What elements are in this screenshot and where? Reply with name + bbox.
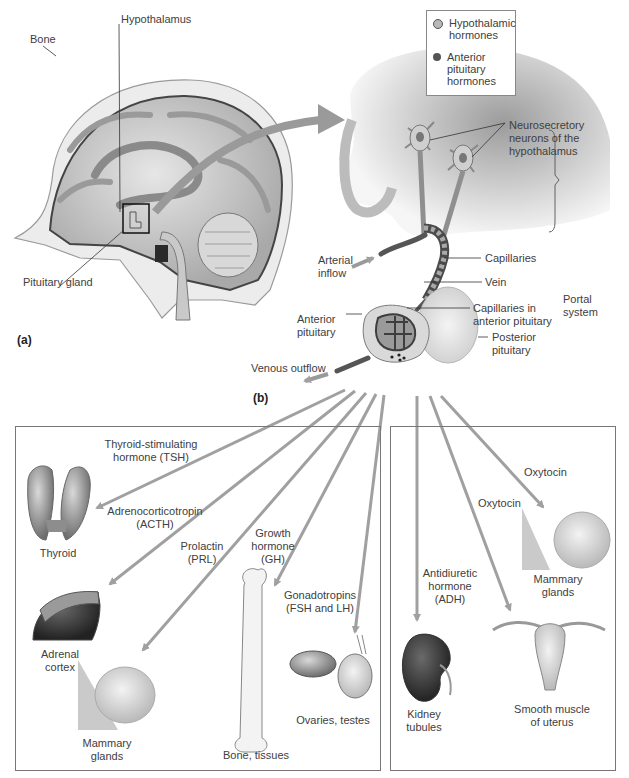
organ-label-kidney-tubules: Kidney tubules <box>402 708 446 734</box>
legend-label: hormones <box>447 75 496 87</box>
legend-item-anterior: Anteriorpituitaryhormones <box>433 51 496 87</box>
label-vein: Vein <box>485 276 506 289</box>
organ-label-mammary-glands-posterior: Mammary glands <box>530 573 586 599</box>
label-line: pituitary <box>297 326 336 338</box>
label-line: (GH) <box>261 553 285 565</box>
label-line: tubules <box>406 721 441 733</box>
label-line: (FSH and LH) <box>286 602 354 614</box>
legend-label: Anterior <box>447 51 486 63</box>
hatched-circle-icon <box>433 19 443 29</box>
hypothalamus-pituitary-illustration <box>305 47 610 381</box>
label-posterior-pituitary: Posterior pituitary <box>492 331 536 357</box>
legend: Hypothalamichormones Anteriorpituitaryho… <box>426 10 516 96</box>
organ-label-bone-tissues: Bone, tissues <box>222 749 290 762</box>
label-line: Mammary <box>534 573 583 585</box>
label-line: Adrenal <box>41 648 79 660</box>
label-arterial-inflow: Arterial inflow <box>318 254 353 280</box>
label-line: Mammary <box>83 737 132 749</box>
hormone-label-gh: Growth hormone (GH) <box>248 527 298 566</box>
label-line: Anterior <box>297 313 336 325</box>
hormone-label-adh: Antidiuretic hormone (ADH) <box>418 567 482 606</box>
legend-item-hypothalamic: Hypothalamichormones <box>433 17 516 41</box>
label-line: Capillaries in <box>473 302 536 314</box>
legend-label: pituitary <box>447 63 486 75</box>
label-portal-system: Portal system <box>563 293 598 319</box>
label-line: Portal <box>563 293 592 305</box>
hormone-label-gonadotropins: Gonadotropins (FSH and LH) <box>280 589 360 615</box>
label-line: glands <box>542 586 574 598</box>
label-anterior-pituitary: Anterior pituitary <box>297 313 336 339</box>
filled-circle-icon <box>433 53 441 61</box>
label-line: hormone <box>428 580 471 592</box>
label-line: Kidney <box>407 708 441 720</box>
label-line: Arterial <box>318 254 353 266</box>
organ-label-mammary-glands: Mammary glands <box>82 737 132 763</box>
label-line: inflow <box>318 267 346 279</box>
label-line: Smooth muscle <box>514 703 590 715</box>
label-line: pituitary <box>492 344 531 356</box>
organ-label-ovaries-testes: Ovaries, testes <box>296 714 370 727</box>
label-line: Neurosecretory <box>509 119 584 131</box>
label-hypothalamus: Hypothalamus <box>121 13 191 26</box>
hormone-label-oxytocin-mammary: Oxytocin <box>524 466 567 479</box>
label-line: neurons of the <box>509 132 579 144</box>
label-neurosecretory-neurons: Neurosecretory neurons of the hypothalam… <box>509 119 584 158</box>
label-line: hormone <box>251 540 294 552</box>
panel-letter-b: (b) <box>253 392 268 405</box>
label-line: Growth <box>255 527 290 539</box>
label-line: (ADH) <box>435 593 466 605</box>
label-line: hormone (TSH) <box>113 451 189 463</box>
hormone-label-acth: Adrenocorticotropin (ACTH) <box>100 505 210 531</box>
label-line: system <box>563 306 598 318</box>
legend-label: hormones <box>449 29 498 41</box>
label-line: (PRL) <box>188 553 217 565</box>
label-line: Thyroid-stimulating <box>105 438 198 450</box>
label-line: of uterus <box>531 716 574 728</box>
organ-label-adrenal-cortex: Adrenal cortex <box>40 648 80 674</box>
organ-label-thyroid: Thyroid <box>34 547 82 560</box>
label-line: Gonadotropins <box>284 589 356 601</box>
label-line: hypothalamus <box>509 145 578 157</box>
label-line: Antidiuretic <box>423 567 477 579</box>
label-line: Prolactin <box>181 540 224 552</box>
hormone-label-tsh: Thyroid-stimulating hormone (TSH) <box>96 438 206 464</box>
label-line: Posterior <box>492 331 536 343</box>
legend-label: Hypothalamic <box>449 17 516 29</box>
label-bone: Bone <box>30 33 56 46</box>
label-capillaries-anterior-pituitary: Capillaries in anterior pituitary <box>473 302 552 328</box>
hormone-label-prl: Prolactin (PRL) <box>175 540 229 566</box>
label-line: anterior pituitary <box>473 315 552 327</box>
panel-letter-a: (a) <box>17 334 32 347</box>
hormone-label-oxytocin-uterus: Oxytocin <box>478 497 521 510</box>
label-pituitary-gland: Pituitary gland <box>23 276 93 289</box>
label-capillaries: Capillaries <box>485 252 536 265</box>
label-line: (ACTH) <box>136 518 173 530</box>
label-line: Adrenocorticotropin <box>107 505 202 517</box>
label-venous-outflow: Venous outflow <box>251 362 326 375</box>
label-line: cortex <box>45 661 75 673</box>
organ-label-smooth-muscle-uterus: Smooth muscle of uterus <box>508 703 596 729</box>
label-line: glands <box>91 750 123 762</box>
